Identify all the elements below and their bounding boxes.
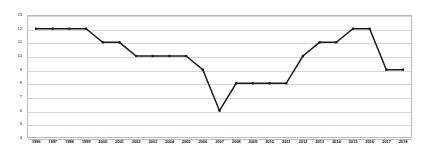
data-point-marker [335,41,337,43]
y-axis-tick-label: 6 [20,109,22,113]
data-point-marker [268,82,270,84]
y-axis-tick-labels: 13121110987654 [0,15,25,138]
data-point-marker [285,82,287,84]
data-point-marker [168,55,170,57]
x-axis-tick-label: 1996 [32,140,41,144]
x-axis-tick-label: 2005 [182,140,191,144]
data-point-marker [202,69,204,71]
series-polyline [36,29,403,111]
y-axis-tick-label: 5 [20,122,22,126]
data-point-marker [35,28,37,30]
line-chart: 13121110987654 1996199719981999200020012… [0,0,423,159]
x-axis-tick-label: 2000 [98,140,107,144]
x-axis-tick-label: 1998 [65,140,74,144]
data-point-marker [102,41,104,43]
x-axis-tick-label: 2001 [115,140,124,144]
data-point-marker [385,69,387,71]
x-axis-tick-label: 2012 [299,140,308,144]
x-axis-tick-label: 2010 [265,140,274,144]
y-axis-tick-label: 12 [18,27,22,31]
data-point-marker [252,82,254,84]
data-point-marker [185,55,187,57]
y-axis-tick-label: 10 [18,54,22,58]
data-point-marker [352,28,354,30]
y-axis-tick-label: 9 [20,68,22,72]
x-axis-tick-label: 2013 [315,140,324,144]
data-point-marker [85,28,87,30]
x-axis-tick-label: 2007 [215,140,224,144]
x-axis-tick-labels: 1996199719981999200020012002200320042005… [27,140,412,152]
x-axis-tick-label: 2017 [382,140,391,144]
x-axis-tick-label: 2011 [282,140,291,144]
data-point-marker [369,28,371,30]
x-axis-tick-label: 2002 [132,140,141,144]
y-axis-tick-label: 11 [18,40,22,44]
x-axis-tick-label: 2014 [332,140,341,144]
data-series-line [27,15,412,138]
data-point-marker [52,28,54,30]
data-point-marker [68,28,70,30]
data-point-marker [152,55,154,57]
x-axis-tick-label: 2008 [232,140,241,144]
y-axis-tick-label: 13 [18,13,22,17]
x-axis-tick-label: 2006 [198,140,207,144]
y-axis-tick-label: 8 [20,81,22,85]
data-point-marker [302,55,304,57]
x-axis-tick-label: 1997 [48,140,57,144]
x-axis-tick-label: 2009 [249,140,258,144]
x-axis-tick-label: 2018 [399,140,408,144]
y-axis-tick-label: 4 [20,136,22,140]
data-point-marker [235,82,237,84]
data-point-marker [135,55,137,57]
x-axis-tick-label: 1999 [82,140,91,144]
x-axis-tick-label: 2003 [148,140,157,144]
data-point-marker [218,110,220,112]
data-point-marker [402,69,404,71]
data-point-marker [318,41,320,43]
x-axis-tick-label: 2015 [349,140,358,144]
x-axis-tick-label: 2016 [365,140,374,144]
y-axis-tick-label: 7 [20,95,22,99]
data-point-marker [118,41,120,43]
x-axis-tick-label: 2004 [165,140,174,144]
